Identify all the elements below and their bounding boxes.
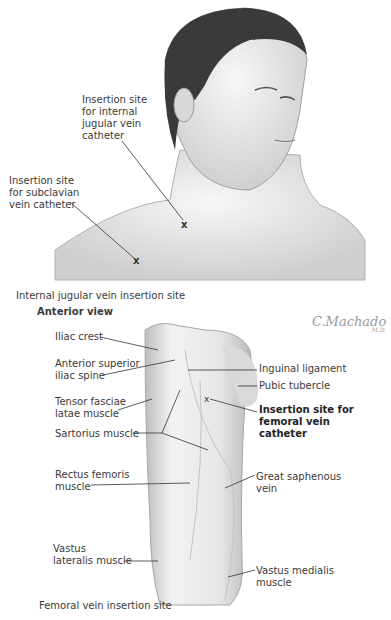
- view-title: Anterior view: [37, 306, 113, 317]
- femoral-marker: x: [204, 394, 210, 404]
- thigh-illustration: [145, 323, 258, 605]
- label-asis: Anterior superior iliac spine: [55, 358, 140, 382]
- caption-femoral: Femoral vein insertion site: [39, 600, 172, 611]
- label-rectus-femoris: Rectus femoris muscle: [55, 469, 129, 493]
- label-femoral-insertion: Insertion site for femoral vein catheter: [259, 404, 354, 440]
- head-neck-illustration: [55, 8, 365, 280]
- label-tfl: Tensor fasciae latae muscle: [55, 396, 126, 420]
- label-inguinal-ligament: Inguinal ligament: [259, 363, 346, 375]
- artist-signature: C.Machado M.D.: [312, 314, 386, 333]
- caption-jugular: Internal jugular vein insertion site: [16, 290, 185, 301]
- label-iliac-crest: Iliac crest: [55, 331, 103, 343]
- label-pubic-tubercle: Pubic tubercle: [259, 380, 330, 392]
- label-internal-jugular: Insertion site for internal jugular vein…: [82, 94, 147, 142]
- label-great-saphenous: Great saphenous vein: [256, 471, 341, 495]
- label-vastus-medialis: Vastus medialis muscle: [256, 565, 334, 589]
- label-subclavian: Insertion site for subclavian vein cathe…: [9, 175, 79, 211]
- label-vastus-lateralis: Vastus lateralis muscle: [53, 543, 132, 567]
- label-sartorius: Sartorius muscle: [55, 428, 139, 440]
- subclavian-marker: x: [133, 255, 140, 266]
- jugular-marker: x: [181, 219, 188, 230]
